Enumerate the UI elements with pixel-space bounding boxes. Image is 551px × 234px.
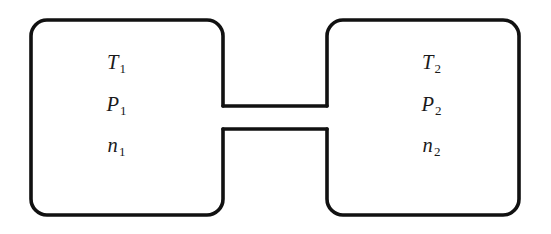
left-temperature-label: T1 xyxy=(107,52,125,73)
left-pressure-symbol: P xyxy=(106,93,119,115)
left-moles-symbol: n xyxy=(108,134,118,156)
right-temperature-symbol: T xyxy=(422,51,434,73)
right-moles-subscript: 2 xyxy=(434,144,441,159)
right-pressure-subscript: 2 xyxy=(435,103,442,118)
label-layer: T1 P1 n1 T2 P2 n2 xyxy=(0,0,551,234)
left-chamber-label-group: T1 P1 n1 xyxy=(78,52,154,156)
right-chamber-label-group: T2 P2 n2 xyxy=(393,52,469,156)
right-moles-label: n2 xyxy=(423,135,440,156)
left-moles-label: n1 xyxy=(108,135,125,156)
right-pressure-symbol: P xyxy=(421,93,434,115)
right-pressure-label: P2 xyxy=(421,94,440,115)
left-pressure-label: P1 xyxy=(106,94,125,115)
figure-canvas: T1 P1 n1 T2 P2 n2 xyxy=(0,0,551,234)
left-pressure-subscript: 1 xyxy=(120,103,127,118)
left-temperature-symbol: T xyxy=(107,51,119,73)
left-moles-subscript: 1 xyxy=(119,144,126,159)
right-temperature-subscript: 2 xyxy=(435,61,442,76)
right-temperature-label: T2 xyxy=(422,52,440,73)
right-moles-symbol: n xyxy=(423,134,433,156)
left-temperature-subscript: 1 xyxy=(120,61,127,76)
